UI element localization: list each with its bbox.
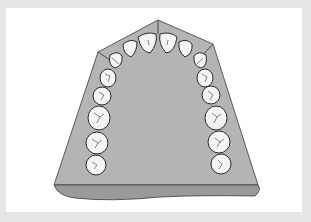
tooth-left-second-premolar <box>93 87 111 105</box>
tooth-left-first-molar <box>88 106 110 130</box>
tooth-left-third-molar <box>86 155 106 175</box>
tooth-left-second-molar <box>86 132 108 154</box>
tooth-right-second-premolar <box>202 86 220 104</box>
tooth-left-first-premolar <box>100 69 116 87</box>
tooth-right-first-premolar <box>197 69 213 87</box>
tooth-right-first-molar <box>205 106 227 130</box>
tooth-right-second-molar <box>208 131 230 153</box>
dental-arch-diagram <box>0 0 311 222</box>
tooth-right-third-molar <box>211 154 231 174</box>
model-base-side <box>54 185 259 200</box>
